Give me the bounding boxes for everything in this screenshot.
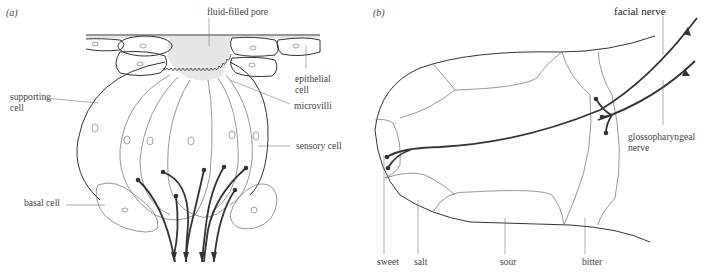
leader-microvilli	[230, 80, 290, 104]
panel-b-tongue-map: (b)	[373, 5, 697, 267]
label-fluid-filled-pore: fluid-filled pore	[207, 6, 268, 17]
label-epithelial-cell-2: cell	[295, 84, 309, 95]
epithelial-cells-left	[86, 36, 172, 76]
label-sweet: sweet	[377, 256, 399, 267]
label-salt: salt	[414, 256, 428, 267]
tongue-outline	[375, 36, 655, 242]
fluid-filled-pore	[167, 37, 230, 81]
taste-diagram: (a)	[0, 0, 720, 278]
label-microvilli: microvilli	[294, 100, 332, 111]
label-supporting-cell-1: supporting	[10, 91, 51, 102]
label-glossopharyngeal-2: nerve	[628, 142, 649, 153]
cell-nuclei	[92, 124, 259, 145]
label-supporting-cell-2: cell	[10, 102, 24, 113]
label-bitter: bitter	[582, 256, 603, 267]
facial-nerve	[385, 18, 697, 170]
label-basal-cell: basal cell	[24, 197, 60, 208]
panel-b-label: (b)	[373, 7, 385, 19]
panel-a-taste-bud: (a)	[6, 6, 342, 262]
label-glossopharyngeal-1: glossopharyngeal	[628, 131, 695, 142]
leader-supporting	[45, 98, 98, 103]
glossopharyngeal-nerve	[594, 61, 695, 135]
label-sensory-cell: sensory cell	[296, 140, 342, 151]
label-facial-nerve: facial nerve	[614, 5, 666, 17]
taste-regions	[375, 52, 619, 225]
label-sour: sour	[500, 256, 517, 267]
label-epithelial-cell-1: epithelial	[295, 73, 331, 84]
panel-a-label: (a)	[6, 7, 18, 19]
taste-bud-outline-left	[77, 62, 165, 200]
